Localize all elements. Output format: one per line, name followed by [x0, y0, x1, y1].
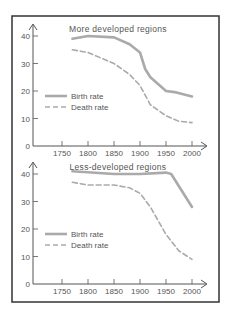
- legend-death-label: Death rate: [71, 241, 109, 250]
- x-tick-label: 2000: [183, 149, 201, 158]
- x-tick-label: 1800: [79, 287, 97, 296]
- legend-birth-label: Birth rate: [71, 230, 104, 239]
- legend-birth-label: Birth rate: [71, 92, 104, 101]
- x-tick-label: 1850: [105, 149, 123, 158]
- chart-title: More developed regions: [69, 24, 167, 34]
- y-tick-label: 0: [26, 280, 31, 289]
- x-tick-label: 1750: [53, 287, 71, 296]
- y-tick-label: 20: [21, 225, 30, 234]
- x-tick-label: 1950: [157, 287, 175, 296]
- y-tick-label: 10: [21, 115, 30, 124]
- x-tick-label: 2000: [183, 287, 201, 296]
- x-tick-label: 1900: [131, 287, 149, 296]
- y-tick-label: 10: [21, 253, 30, 262]
- birth-rate-line: [72, 36, 192, 97]
- chart-less-developed: 010203040175018001850190019502000Less-de…: [21, 162, 207, 296]
- figure: 010203040175018001850190019502000More de…: [0, 0, 233, 319]
- y-tick-label: 30: [21, 60, 30, 69]
- y-tick-label: 40: [21, 32, 30, 41]
- legend-death-label: Death rate: [71, 103, 109, 112]
- chart-title: Less-developed regions: [70, 162, 167, 172]
- y-tick-label: 30: [21, 198, 30, 207]
- x-tick-label: 1850: [105, 287, 123, 296]
- x-tick-label: 1950: [157, 149, 175, 158]
- figure-frame: [12, 16, 219, 302]
- y-tick-label: 20: [21, 87, 30, 96]
- x-tick-label: 1900: [131, 149, 149, 158]
- x-tick-label: 1750: [53, 149, 71, 158]
- chart-more-developed: 010203040175018001850190019502000More de…: [21, 24, 207, 158]
- y-tick-label: 40: [21, 170, 30, 179]
- x-tick-label: 1800: [79, 149, 97, 158]
- y-tick-label: 0: [26, 142, 31, 151]
